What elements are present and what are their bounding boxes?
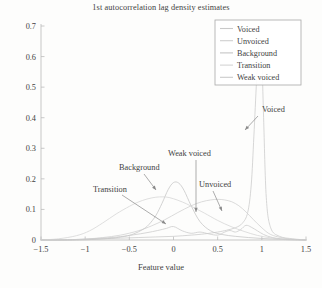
x-tick-label: 0.5 (212, 245, 222, 254)
y-tick-label: 0.3 (26, 144, 36, 153)
x-tick-label: −1.5 (33, 245, 48, 254)
density-curve-transition (41, 197, 306, 240)
x-tick-label: 1 (260, 245, 264, 254)
y-tick-label: 0.7 (26, 22, 36, 31)
annotation-arrowhead-background (152, 186, 156, 190)
y-tick-label: 0 (32, 236, 36, 245)
plot-area: 00.10.20.30.40.50.60.7−1.5−1−0.500.511.5… (0, 0, 322, 288)
annotation-label-transition: Transition (93, 185, 128, 194)
annotation-arrowhead-weak-voiced (194, 208, 197, 212)
y-tick-label: 0.4 (26, 114, 37, 123)
density-curve-unvoiced (41, 199, 306, 240)
annotation-arrowhead-unvoiced (219, 206, 222, 211)
x-tick-label: −0.5 (122, 245, 137, 254)
annotation-label-unvoiced: Unvoiced (199, 180, 232, 189)
legend-label-voiced: Voiced (237, 25, 260, 34)
annotation-label-voiced: Voiced (262, 105, 286, 114)
x-tick-label: 1.5 (301, 245, 311, 254)
legend-label-unvoiced: Unvoiced (237, 37, 269, 46)
y-tick-label: 0.5 (26, 83, 36, 92)
annotation-label-weak-voiced: Weak voiced (168, 149, 212, 158)
y-tick-label: 0.2 (26, 175, 36, 184)
annotation-label-background: Background (119, 163, 160, 172)
legend-label-weak-voiced: Weak voiced (237, 73, 279, 82)
legend-label-transition: Transition (237, 61, 270, 70)
y-tick-label: 0.1 (26, 205, 36, 214)
x-tick-label: −1 (81, 245, 90, 254)
x-tick-label: 0 (171, 245, 175, 254)
chart-figure: 1st autocorrelation lag density estimate… (0, 0, 322, 288)
y-tick-label: 0.6 (26, 53, 36, 62)
legend-label-background: Background (237, 49, 277, 58)
